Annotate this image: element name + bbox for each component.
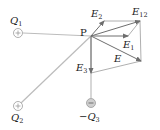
e-label: E bbox=[113, 53, 122, 64]
charge-q1-positive-icon bbox=[14, 29, 23, 38]
e3-label: E3 bbox=[75, 62, 87, 75]
q2-label: Q2 bbox=[11, 112, 23, 125]
point-p-label: P bbox=[80, 27, 87, 38]
electric-field-diagram: P Q1 Q2 −Q3 E1 E2 E12 E E3 bbox=[0, 0, 160, 130]
e12-label: E12 bbox=[131, 6, 148, 19]
vector-e12 bbox=[91, 21, 140, 36]
q3-label: −Q3 bbox=[79, 111, 100, 124]
charge-q2-positive-icon bbox=[14, 102, 23, 111]
e2-label: E2 bbox=[90, 8, 102, 21]
e1-label: E1 bbox=[122, 39, 134, 52]
construction-line-e12-e bbox=[140, 21, 141, 61]
q1-label: Q1 bbox=[10, 15, 22, 28]
charge-q3-negative-icon bbox=[87, 99, 96, 108]
